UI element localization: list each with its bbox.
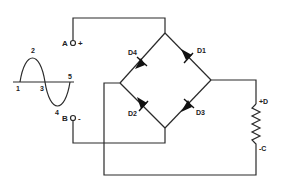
- ac-waveform: 1 2 3 4 5: [13, 47, 74, 116]
- diode-d3-icon: [181, 99, 194, 112]
- load-bottom-label: -C: [259, 145, 266, 152]
- terminal-a-label: A: [62, 39, 68, 48]
- wire-b-to-bottom: [73, 121, 165, 144]
- diode-d1-label: D1: [197, 47, 206, 54]
- terminal-a: A +: [62, 18, 165, 48]
- load-circuit: +D -C: [104, 80, 268, 175]
- diode-d2-label: D2: [128, 110, 137, 117]
- terminal-b-label: B: [62, 114, 68, 123]
- wave-point-4: 4: [55, 109, 59, 116]
- terminal-b-polarity: -: [78, 114, 81, 123]
- wire-load-return: [104, 83, 256, 175]
- wave-point-2: 2: [31, 47, 35, 54]
- load-resistor-icon: [252, 104, 260, 148]
- terminal-b-node: [71, 116, 76, 121]
- bridge-arm-d4: [120, 33, 165, 83]
- terminal-a-node: [71, 41, 76, 46]
- wave-point-3: 3: [40, 85, 44, 92]
- wire-right-to-load: [211, 80, 256, 104]
- diode-d1-icon: [181, 49, 193, 63]
- terminal-b: B -: [62, 114, 165, 143]
- wire-a-to-top: [73, 18, 165, 41]
- load-top-label: +D: [259, 98, 268, 105]
- wave-point-5: 5: [68, 73, 72, 80]
- diode-d4-icon: [135, 57, 147, 69]
- wave-point-1: 1: [16, 85, 20, 92]
- terminal-a-polarity: +: [78, 39, 83, 48]
- diode-d3-label: D3: [196, 109, 205, 116]
- bridge-rectifier-diagram: 1 2 3 4 5 A + B - D4 D1: [0, 0, 283, 187]
- bridge: D4 D1 D2 D3: [120, 33, 211, 128]
- diode-d4-label: D4: [128, 49, 137, 56]
